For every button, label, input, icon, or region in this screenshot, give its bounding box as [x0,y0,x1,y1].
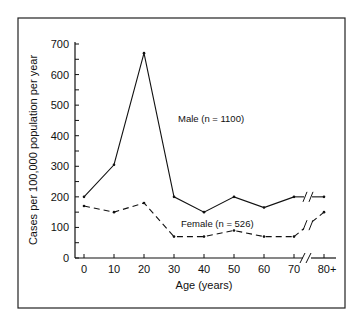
data-point-marker [233,196,236,199]
series-group [83,52,326,238]
male-series-label: Male (n = 1100) [178,113,244,124]
x-tick-label: 80+ [318,263,337,275]
x-tick-label: 60 [258,263,270,275]
series-break-icon [303,192,313,202]
data-point-marker [83,205,86,208]
data-point-marker [293,235,296,238]
series-break-icon [303,220,313,230]
x-tick-label: 0 [81,263,87,275]
data-point-marker [83,196,86,199]
axes: 010020030040050060070001020304050607080+ [51,38,337,275]
x-tick-label: 20 [138,263,150,275]
y-tick-label: 300 [51,160,69,172]
y-tick-label: 700 [51,38,69,50]
data-point-marker [323,196,326,199]
data-point-marker [293,196,296,199]
data-point-marker [113,163,116,166]
y-tick-label: 100 [51,221,69,233]
x-axis-title: Age (years) [176,279,233,291]
data-point-marker [143,52,146,55]
data-point-marker [233,229,236,232]
y-tick-label: 0 [63,252,69,264]
data-point-marker [263,235,266,238]
x-tick-label: 10 [108,263,120,275]
y-axis-title: Cases per 100,000 population per year [27,55,39,246]
y-tick-label: 600 [51,69,69,81]
data-point-marker [143,202,146,205]
x-tick-label: 30 [168,263,180,275]
data-point-marker [203,211,206,214]
data-point-marker [173,235,176,238]
y-tick-label: 400 [51,130,69,142]
female-series-label: Female (n = 526) [181,218,254,229]
x-tick-label: 70 [288,263,300,275]
y-tick-label: 500 [51,99,69,111]
female-series-line-to-break [294,228,304,236]
male-series-line [84,53,294,212]
female-series-line-after-break [312,212,324,222]
data-point-marker [173,196,176,199]
data-point-marker [113,211,116,214]
x-tick-label: 40 [198,263,210,275]
x-tick-label: 50 [228,263,240,275]
data-point-marker [323,211,326,214]
data-point-marker [203,235,206,238]
data-point-marker [263,206,266,209]
y-tick-label: 200 [51,191,69,203]
chart: 010020030040050060070001020304050607080+… [0,0,363,324]
